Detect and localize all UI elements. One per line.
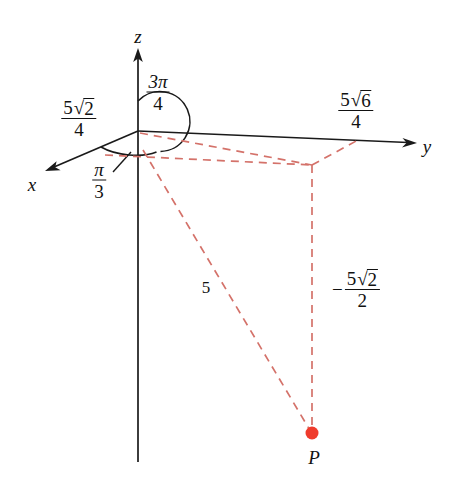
y-component-denominator: 4 [338, 111, 373, 131]
x-component-numerator: 5√2 [61, 97, 96, 119]
azimuth-angle-numerator: π [92, 160, 106, 181]
y-component-dashed-line [312, 140, 358, 165]
x-axis-label: x [28, 175, 36, 194]
z-component-label: − 5√2 2 [332, 268, 380, 310]
point-p-marker [306, 427, 319, 440]
polar-angle-numerator: 3π [146, 72, 169, 93]
z-component-denominator: 2 [345, 290, 380, 310]
y-component-numerator: 5√6 [338, 89, 373, 111]
azimuth-angle-label: π 3 [92, 160, 106, 201]
y-axis-line [138, 131, 408, 143]
polar-angle-fraction: 3π 4 [146, 72, 169, 113]
x-axis-arrowhead [45, 161, 61, 171]
z-component-sign: − [332, 280, 345, 299]
radius-dashed-line [143, 150, 311, 432]
x-component-coefficient: 5 [63, 97, 73, 118]
x-component-fraction: 5√2 4 [61, 97, 96, 139]
z-component-radicand: 2 [367, 269, 379, 289]
polar-angle-denominator: 4 [146, 93, 169, 113]
point-p-label: P [308, 448, 320, 467]
x-component-denominator: 4 [61, 119, 96, 139]
spherical-coordinates-figure: z y x P 5√2 4 5√6 4 − 5√2 2 3π 4 [0, 0, 453, 491]
azimuth-angle-fraction: π 3 [92, 160, 106, 201]
sqrt-icon: √6 [350, 89, 372, 109]
polar-angle-label: 3π 4 [146, 72, 169, 113]
x-component-label: 5√2 4 [61, 97, 96, 139]
y-component-coefficient: 5 [340, 89, 350, 110]
z-component-numerator: 5√2 [345, 268, 380, 290]
diagram-canvas [0, 0, 453, 491]
azimuth-angle-denominator: 3 [92, 181, 106, 201]
y-axis-label: y [423, 137, 431, 156]
sqrt-icon: √2 [73, 97, 95, 117]
construction-lines [105, 133, 358, 432]
y-component-fraction: 5√6 4 [338, 89, 373, 131]
y-component-radicand: 6 [360, 90, 372, 110]
z-component-coefficient: 5 [347, 268, 357, 289]
z-component-fraction: 5√2 2 [345, 268, 380, 310]
radius-label: 5 [202, 279, 211, 296]
z-component-signed-value: − 5√2 2 [332, 268, 380, 310]
y-component-label: 5√6 4 [338, 89, 373, 131]
sqrt-icon: √2 [356, 268, 378, 288]
x-component-radicand: 2 [83, 98, 95, 118]
z-axis-label: z [134, 27, 141, 46]
